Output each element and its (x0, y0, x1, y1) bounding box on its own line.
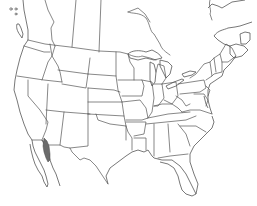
tx-la-border (126, 126, 132, 150)
or-ca-nv-border (17, 76, 62, 82)
texas-gulf-coast (106, 150, 154, 184)
newfoundland (240, 32, 250, 44)
mt-id-wy-border (52, 46, 62, 82)
us-canada-border (28, 40, 156, 60)
ky-north (154, 104, 182, 112)
labrador-coast (208, 0, 245, 8)
wv-border (176, 96, 190, 106)
lake-erie (166, 79, 184, 89)
ut-az-border (46, 110, 90, 114)
ny-border (190, 62, 212, 80)
wy-ut-co (62, 58, 90, 88)
florida (154, 158, 196, 196)
canada-bc-alberta (45, 0, 55, 46)
range-map (0, 0, 257, 206)
nv-ut-border (46, 84, 48, 124)
nm-tx-border (70, 114, 88, 148)
islands (10, 8, 17, 15)
in-border (154, 84, 164, 106)
canada-ontario-quebec (209, 0, 212, 20)
wa-or-border (24, 46, 50, 52)
canada-alberta-sask (72, 0, 76, 47)
ca-nv-border (28, 80, 48, 140)
al-ga-border (168, 124, 170, 152)
idaho-west (42, 44, 52, 80)
ia-border (118, 80, 144, 96)
mi-lower (156, 64, 166, 84)
lake-michigan (150, 62, 156, 86)
dakotas-border (88, 74, 116, 76)
ky-tn-border (148, 112, 190, 118)
pacific-coast-canada (23, 0, 28, 40)
species-range-highlight (43, 138, 50, 162)
la-ms-border (134, 138, 146, 150)
canada-manitoba-ontario (128, 12, 170, 55)
lake-ontario (182, 71, 196, 77)
sd-ne-border (88, 88, 120, 92)
us-west-coast (14, 40, 32, 140)
lake-huron (160, 60, 172, 78)
canada-sask-manitoba (99, 0, 101, 52)
ks-ok-border (88, 114, 124, 116)
mo-border (122, 100, 148, 120)
gulf-st-lawrence (214, 36, 230, 46)
quebec-north-coast (214, 22, 252, 36)
atlantic-coast-se (190, 116, 214, 194)
vt-nh (214, 58, 216, 72)
vancouver-island (17, 24, 23, 38)
ga-fl-border (158, 154, 188, 158)
oh-border (162, 82, 178, 104)
az-nm-border (60, 112, 64, 145)
north-america-outline-map (0, 0, 257, 206)
nova-scotia (230, 44, 248, 58)
ga-sc-border (178, 124, 190, 146)
mt-wy-border (58, 70, 88, 74)
pa-border (178, 80, 206, 94)
lake-superior (128, 50, 162, 60)
